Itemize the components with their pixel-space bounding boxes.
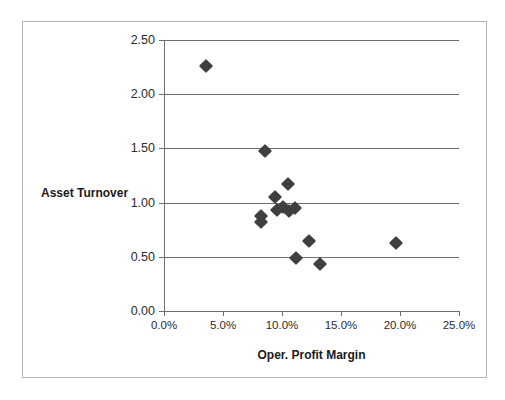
x-axis-tick-label: 10.0% [266,319,299,331]
scatter-point [313,257,327,271]
y-axis-tick [159,94,164,95]
y-axis-tick-label: 2.50 [131,33,155,47]
y-axis-tick [159,257,164,258]
gridline-y [164,94,459,95]
x-axis-tick-label: 5.0% [210,319,236,331]
scatter-point [389,236,403,250]
scatter-point [199,59,213,73]
y-axis-tick-label: 0.50 [131,250,155,264]
x-axis-tick [282,311,283,316]
x-axis-title: Oper. Profit Margin [164,348,459,362]
plot-area: 0.000.501.001.502.002.500.0%5.0%10.0%15.… [164,40,459,311]
scatter-point [281,177,295,191]
x-axis-tick-label: 0.0% [151,319,177,331]
y-axis-line [164,40,165,311]
x-axis-tick [400,311,401,316]
gridline-y [164,257,459,258]
chart-frame: 0.000.501.001.502.002.500.0%5.0%10.0%15.… [22,21,487,378]
scatter-point [258,143,272,157]
x-axis-tick [164,311,165,316]
scatter-point [289,251,303,265]
x-axis-tick-label: 20.0% [384,319,417,331]
scatter-point [302,233,316,247]
y-axis-tick-label: 2.00 [131,87,155,101]
x-axis-tick [223,311,224,316]
x-axis-tick-label: 25.0% [443,319,476,331]
y-axis-tick-label: 0.00 [131,304,155,318]
y-axis-tick [159,148,164,149]
y-axis-tick [159,203,164,204]
gridline-y [164,40,459,41]
y-axis-tick-label: 1.50 [131,141,155,155]
gridline-y [164,311,459,312]
x-axis-tick-label: 15.0% [325,319,358,331]
y-axis-tick [159,40,164,41]
y-axis-tick-label: 1.00 [131,196,155,210]
x-axis-tick [459,311,460,316]
gridline-y [164,148,459,149]
x-axis-tick [341,311,342,316]
y-axis-title: Asset Turnover [41,186,128,200]
gridline-y [164,203,459,204]
